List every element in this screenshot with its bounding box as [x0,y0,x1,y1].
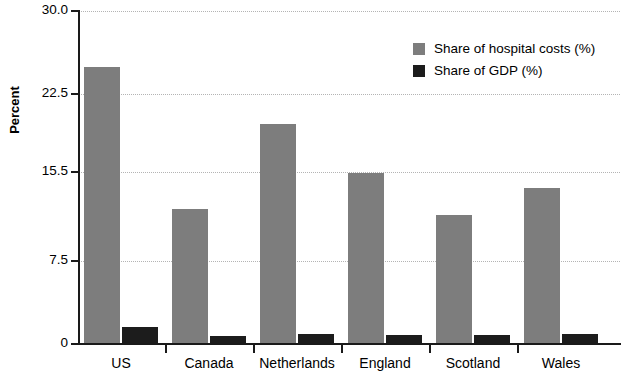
legend-swatch-icon [413,43,425,55]
legend-item-share-of-gdp: Share of GDP (%) [413,60,623,82]
legend-swatch-icon [413,65,425,77]
legend: Share of hospital costs (%) Share of GDP… [413,38,623,82]
y-axis-line [78,10,80,345]
gridline [79,94,620,95]
y-axis-title: Percent [0,60,30,160]
y-tick-label: 22.5 [8,86,68,100]
x-category-label-wales: Wales [491,354,626,372]
bar-netherlands-hospital-costs [260,124,296,344]
bar-us-hospital-costs [84,67,120,345]
x-tick-mark [341,344,343,353]
bar-scotland-hospital-costs [436,215,472,344]
y-tick-label: 30.0 [8,3,68,17]
legend-label: Share of hospital costs (%) [434,42,595,56]
x-axis-line [78,343,621,345]
gridline [79,11,620,12]
legend-label: Share of GDP (%) [434,64,543,78]
y-tick-label: 7.5 [8,253,68,267]
x-tick-mark [429,344,431,353]
bar-england-hospital-costs [348,173,384,344]
x-tick-mark [253,344,255,353]
x-tick-mark [517,344,519,353]
legend-item-hospital-costs: Share of hospital costs (%) [413,38,623,60]
bar-canada-hospital-costs [172,209,208,344]
y-tick-label: 0 [8,336,68,350]
y-tick-label: 15.5 [8,164,68,178]
x-tick-mark [165,344,167,353]
bar-us-gdp [122,327,158,344]
bar-wales-hospital-costs [524,188,560,345]
bar-chart: Percent 30.0 22.5 15.5 7.5 0 US Canada N… [0,0,626,372]
